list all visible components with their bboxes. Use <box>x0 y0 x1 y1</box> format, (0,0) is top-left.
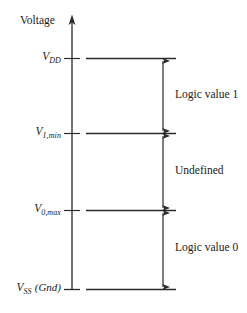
level-label-vss: VSS(Gnd) <box>16 282 61 294</box>
region-label-logic-1: Logic value 1 <box>175 89 238 101</box>
level-label-vss-suffix: (Gnd) <box>35 281 61 293</box>
level-label-v1min-subscript: 1,min <box>43 131 62 140</box>
region-label-logic-0: Logic value 0 <box>175 242 238 254</box>
level-label-vdd: VDD <box>42 51 61 63</box>
diagram-canvas <box>0 0 247 313</box>
level-label-v1min-symbol: V <box>35 125 42 137</box>
level-label-vdd-subscript: DD <box>49 56 61 65</box>
level-label-vss-subscript: SS <box>24 287 32 296</box>
voltage-level-diagram: Voltage VDD V1,min V0,max VSS(Gnd) Logic… <box>0 0 247 313</box>
level-label-v0max-subscript: 0,max <box>41 208 61 217</box>
level-label-v1min: V1,min <box>35 126 61 138</box>
level-label-vss-symbol: V <box>16 281 23 293</box>
level-label-v0max: V0,max <box>34 203 61 215</box>
axis-title-voltage: Voltage <box>20 15 55 27</box>
voltage-axis <box>64 15 80 290</box>
region-label-undefined: Undefined <box>175 165 224 177</box>
